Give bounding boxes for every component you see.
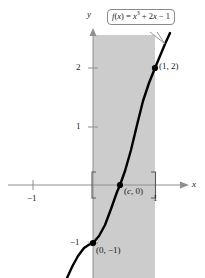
y-axis-arrow [90, 28, 97, 36]
formula-term3: − 1 [157, 11, 170, 21]
shaded-interval-band [93, 35, 155, 278]
point-marker-root [117, 182, 123, 188]
x-axis-label: x [192, 180, 196, 189]
point-label-lower-endpoint: (0, −1) [96, 246, 121, 255]
y-tick-label-2: 2 [76, 63, 81, 72]
point-label-root: (c, 0) [124, 187, 143, 196]
x-tick-label-1: 1 [153, 194, 158, 203]
point-marker-upper-endpoint [152, 65, 158, 71]
x-axis-arrow [180, 182, 189, 189]
plot-canvas [0, 0, 205, 278]
graph-figure: f(x) = x3 + 2x − 1 y x −1 1 2 1 −1 (1, 2… [0, 0, 205, 278]
formula-term2: + 2 [140, 11, 153, 21]
formula-equals: = [124, 11, 133, 21]
y-tick-label-1: 1 [76, 122, 81, 131]
point-label-upper-endpoint: (1, 2) [159, 62, 179, 71]
x-tick-label-neg1: −1 [27, 194, 37, 203]
function-formula-callout: f(x) = x3 + 2x − 1 [107, 9, 175, 25]
root-label-close: , 0) [131, 186, 143, 196]
y-tick-label-neg1: −1 [70, 238, 80, 247]
y-axis-label: y [87, 10, 91, 19]
